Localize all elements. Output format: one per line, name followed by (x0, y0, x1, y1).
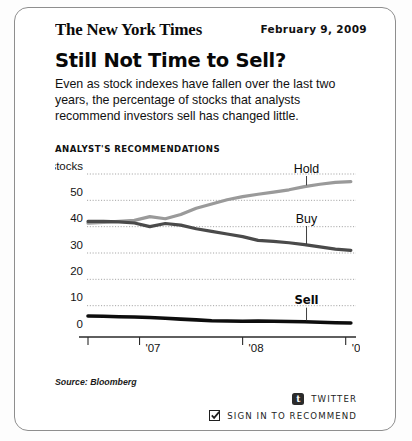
y-axis-label: 10 (70, 291, 83, 303)
nyt-infographic-card: The New York Times February 9, 2009 Stil… (14, 7, 396, 431)
twitter-icon[interactable]: t (292, 393, 304, 405)
x-axis-label: '07 (146, 342, 161, 354)
twitter-label: TWITTER (311, 394, 357, 404)
y-axis-label: 0 (77, 318, 83, 330)
chart-source: Source: Bloomberg (55, 377, 137, 387)
recommend-label: SIGN IN TO RECOMMEND (227, 411, 357, 421)
checkmark-icon (211, 411, 220, 420)
analysts-recommendations-chart: 0102030405060% of stocksHoldBuySell'07'0… (55, 160, 360, 365)
card-inner: The New York Times February 9, 2009 Stil… (15, 8, 395, 430)
screenshot-root: The New York Times February 9, 2009 Stil… (0, 0, 412, 441)
y-axis-label: 60% of stocks (55, 160, 83, 172)
twitter-share-action[interactable]: t TWITTER (292, 393, 357, 405)
series-label-buy: Buy (296, 212, 318, 226)
recommend-checkbox[interactable] (209, 410, 220, 421)
y-axis-label: 30 (70, 239, 83, 251)
x-axis-label: '09 (352, 342, 360, 354)
series-label-sell: Sell (294, 293, 318, 307)
y-axis-label: 50 (70, 186, 83, 198)
chart-title: ANALYST'S RECOMMENDATIONS (55, 144, 220, 154)
y-axis-label: 20 (70, 265, 83, 277)
chart-svg: 0102030405060% of stocksHoldBuySell'07'0… (55, 160, 360, 365)
x-axis-label: '08 (249, 342, 264, 354)
y-axis-label: 40 (70, 212, 83, 224)
nyt-masthead-logo: The New York Times (55, 19, 202, 40)
masthead-row: The New York Times February 9, 2009 (55, 19, 367, 41)
article-deck: Even as stock indexes have fallen over t… (55, 76, 355, 125)
series-line-sell (88, 316, 351, 323)
publication-date: February 9, 2009 (260, 23, 367, 35)
series-line-buy (88, 221, 351, 250)
series-label-hold: Hold (294, 162, 320, 176)
sign-in-to-recommend-action[interactable]: SIGN IN TO RECOMMEND (209, 410, 357, 421)
page-title: Still Not Time to Sell? (55, 49, 286, 72)
